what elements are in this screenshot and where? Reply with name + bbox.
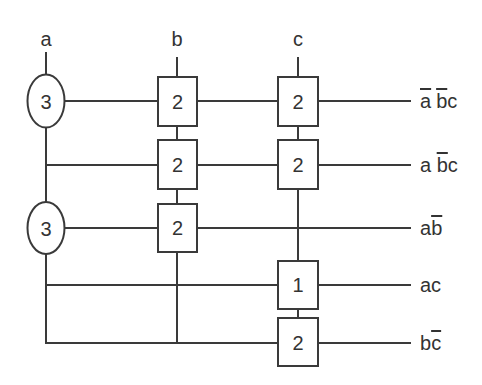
- output-label-row4: ac: [420, 275, 441, 295]
- term-c: c: [447, 91, 457, 111]
- term-b-bar: b: [431, 218, 442, 238]
- node-value: 2: [292, 332, 303, 354]
- node-value: 2: [172, 217, 183, 239]
- term-b: b: [420, 333, 431, 353]
- node-value: 2: [292, 154, 303, 176]
- node-c2: 2: [278, 140, 318, 189]
- output-label-row5: bc: [420, 333, 441, 353]
- node-value: 1: [292, 274, 303, 296]
- node-value: 2: [172, 154, 183, 176]
- output-label-row1: abc: [420, 91, 457, 111]
- term-c: c: [448, 155, 458, 175]
- node-value: 2: [172, 91, 183, 113]
- term-a: a: [420, 218, 431, 238]
- node-b2: 2: [158, 140, 197, 189]
- node-c4: 1: [278, 261, 318, 309]
- node-value: 3: [40, 91, 51, 113]
- circuit-diagram: a b c 3 3 2 2: [0, 0, 482, 385]
- term-a-bar: a: [420, 91, 431, 111]
- node-c5: 2: [278, 318, 318, 366]
- term-ac: ac: [420, 275, 441, 295]
- node-c1: 2: [278, 77, 318, 126]
- input-label-c: c: [293, 28, 303, 50]
- node-value: 3: [40, 218, 51, 240]
- input-label-a: a: [40, 28, 52, 50]
- node-a1: 3: [28, 75, 65, 128]
- node-value: 2: [292, 91, 303, 113]
- term-b-bar: b: [437, 155, 448, 175]
- input-label-b: b: [171, 28, 182, 50]
- node-b1: 2: [158, 77, 197, 126]
- node-a2: 3: [28, 202, 65, 254]
- term-c-bar: c: [431, 333, 441, 353]
- node-b3: 2: [158, 204, 197, 252]
- output-label-row3: ab: [420, 218, 442, 238]
- output-label-row2: a bc: [420, 155, 458, 175]
- term-a: a: [420, 155, 437, 175]
- term-b-bar: b: [436, 91, 447, 111]
